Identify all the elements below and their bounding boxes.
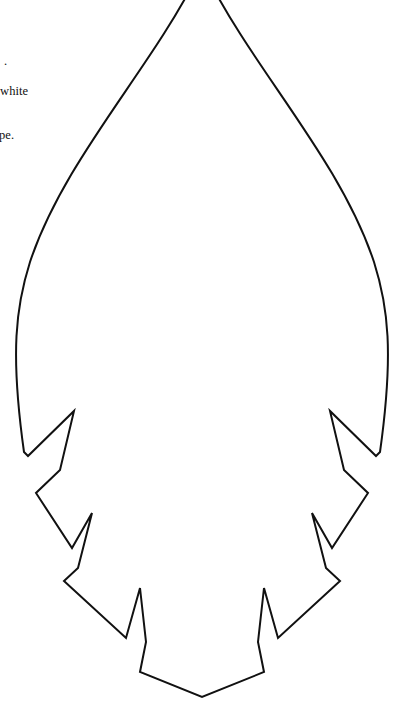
leaf-outline-svg <box>0 0 393 720</box>
leaf-outline-drawing <box>0 0 393 720</box>
page-canvas: . white pe. <box>0 0 393 720</box>
text-fragment-period: . <box>4 54 7 68</box>
text-fragment-pe: pe. <box>0 128 14 142</box>
text-fragment-white: white <box>0 84 28 98</box>
margin-text-column: . white pe. <box>0 0 52 720</box>
